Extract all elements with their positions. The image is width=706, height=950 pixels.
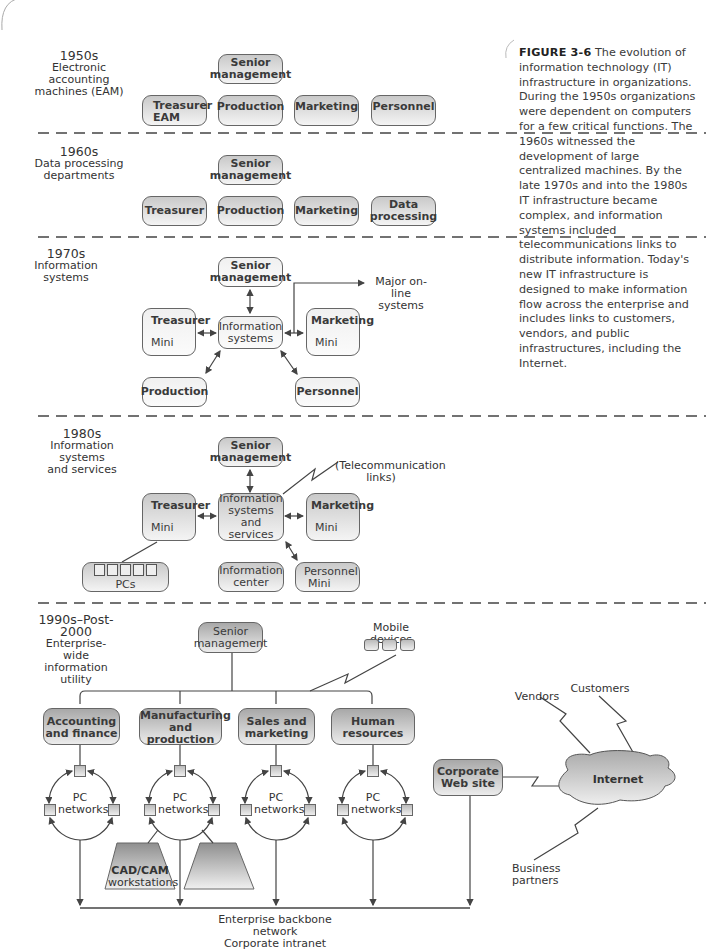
marketing-box: Marketing [294,196,359,226]
box-line: management [194,638,268,650]
label-line: networks [158,804,202,816]
pc-node-icon [44,804,56,816]
label-line: Corporate intranet [200,938,350,950]
pc-node-icon [401,804,413,816]
box-line: Mini [311,522,338,534]
box-line: Senior [213,626,248,638]
data-processing-box: Dataprocessing [371,196,436,226]
label-line: partners [512,875,552,887]
personnel-mini-box: PersonnelMini [295,562,360,592]
marketing-mini-box: MarketingMini [306,308,360,356]
pc-networks-label: PCnetworks [351,792,395,816]
manufacturing-production-box: Manufacturingand production [139,708,222,745]
era-year: 1990s–Post-2000 [34,614,118,638]
box-line: Mini [311,337,338,349]
pcs-box: PCs [82,562,169,592]
label-line: Enterprise backbone network [200,914,350,938]
label-line: networks [351,804,395,816]
figure-label: FIGURE 3-6 [519,46,591,59]
pc-icons [93,564,158,579]
treasurer-mini-box: TreasurerMini [142,493,196,541]
pc-icon [120,564,131,576]
marketing-mini-box: MarketingMini [306,493,360,541]
major-online-systems-label: Major on-linesystems [366,276,436,312]
box-line: Mini [304,578,331,590]
customers-label: Customers [570,683,630,695]
pc-icon [94,564,105,576]
mobile-device-icon [364,639,379,651]
label-line: networks [254,804,298,816]
senior-management-box: Seniormanagement [218,437,283,467]
box-line: management [210,272,292,284]
era-1990s-label: 1990s–Post-2000 Enterprise-wide informat… [34,614,118,686]
box-line: Marketing [311,500,374,512]
figure-caption-text: The evolution of information technology … [519,46,695,370]
marketing-box: Marketing [294,95,359,126]
corporate-web-site-box: CorporateWeb site [433,759,503,796]
box-line: systems [228,333,274,345]
pc-node-icon [304,804,316,816]
mobile-device-icon [382,639,397,651]
box-line: processing [370,211,437,223]
box-line: Mini [151,337,174,349]
pc-node-icon [174,765,186,777]
personnel-box: Personnel [295,377,360,407]
information-center-box: Informationcenter [218,562,284,592]
pc-icon [133,564,144,576]
pc-node-icon [367,765,379,777]
box-line: and production [140,722,221,746]
box-line: management [210,69,292,81]
pc-node-icon [144,804,156,816]
box-line: Web site [441,778,495,790]
treasurer-box: Treasurer [142,196,207,226]
box-line: marketing [239,728,314,740]
accounting-finance-box: Accountingand finance [43,708,120,745]
label-line: networks [58,804,102,816]
box-line: EAM [153,112,180,124]
treasurer-mini-box: TreasurerMini [142,308,196,356]
era-1950s-label: 1950s Electronic accounting machines (EA… [34,50,124,98]
pc-networks-label: PCnetworks [58,792,102,816]
senior-management-box: Seniormanagement [218,54,283,84]
box-line: Treasurer [151,315,210,327]
production-box: Production [218,196,283,226]
vendors-label: Vendors [512,691,562,703]
human-resources-box: Human resources [331,708,415,745]
caption-bracket [506,40,514,58]
era-1980s-label: 1980s Information systems and services [34,428,130,476]
box-line: and finance [44,728,119,740]
pc-icon [146,564,157,576]
workstation-shape [184,843,254,889]
box-line: Marketing [311,315,374,327]
pc-node-icon [337,804,349,816]
senior-management-box: Seniormanagement [218,155,283,185]
information-systems-box: Informationsystems [218,316,283,349]
label-line: Major on-line [366,276,436,300]
box-line: Corporate [437,766,499,778]
internet-label: Internet [590,774,646,786]
label-line: workstations [108,877,172,889]
box-line: services [228,529,273,541]
era-1960s-label: 1960s Data processing departments [34,146,124,182]
cadcam-workstations-label: CAD/CAMworkstations [108,865,172,889]
era-title-line: machines (EAM) [34,86,124,98]
era-title-line: and services [34,464,130,476]
era-title-line: systems [34,272,98,284]
label-line: systems [366,300,436,312]
era-1970s-label: 1970s Information systems [34,248,98,284]
era-title-line: Information systems [34,440,130,464]
box-line: center [233,577,268,589]
treasurer-eam-box: TreasurerEAM [142,95,207,126]
mobile-device-icon [400,639,415,651]
era-title-line: departments [34,170,124,182]
enterprise-backbone-label: Enterprise backbone networkCorporate int… [200,914,350,950]
pc-node-icon [74,765,86,777]
production-box: Production [218,95,283,126]
box-line: management [210,452,292,464]
business-partners-label: Businesspartners [512,863,552,887]
pc-node-icon [108,804,120,816]
personnel-box: Personnel [371,95,436,126]
era-title-line: Enterprise-wide [34,638,118,662]
information-systems-services-box: Informationsystems andservices [218,493,284,541]
pc-node-icon [240,804,252,816]
